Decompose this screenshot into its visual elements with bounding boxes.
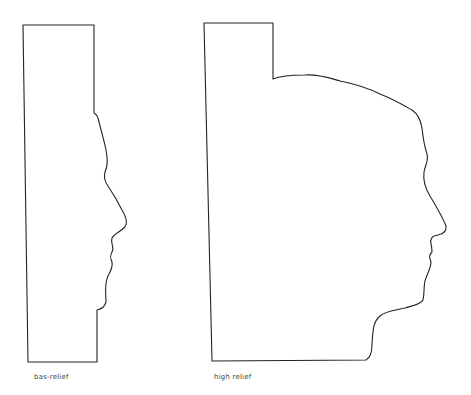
profile-outlines (0, 0, 471, 395)
relief-comparison-figure: bas-relief high relief (0, 0, 471, 395)
high-relief-outline (204, 23, 446, 361)
caption-high-relief: high relief (214, 373, 251, 381)
caption-bas-relief: bas-relief (34, 373, 69, 381)
bas-relief-outline (23, 25, 126, 362)
